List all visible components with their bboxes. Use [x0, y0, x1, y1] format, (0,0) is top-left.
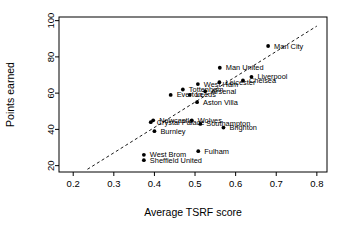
data-point-label: Man City	[274, 42, 303, 51]
data-point-label: Fulham	[204, 147, 229, 156]
data-point	[169, 93, 173, 97]
x-tick-label: 0.2	[67, 178, 80, 189]
x-tick-label: 0.3	[107, 178, 120, 189]
data-point	[218, 66, 222, 70]
data-point-label: Sheffield United	[150, 156, 202, 165]
plot-canvas: 0.20.30.40.50.60.70.820406080100Average …	[0, 0, 345, 231]
data-point	[222, 126, 226, 130]
data-point-label: Brighton	[229, 123, 257, 132]
y-tick-label: 20	[45, 160, 56, 171]
y-axis-title: Points earned	[4, 62, 16, 127]
data-point	[195, 100, 199, 104]
data-point-label: Aston Villa	[203, 98, 239, 107]
x-axis-title: Average TSRF score	[144, 206, 242, 218]
data-point-label: Man United	[226, 63, 264, 72]
data-point	[153, 129, 157, 133]
data-point	[266, 44, 270, 48]
x-tick-label: 0.6	[229, 178, 242, 189]
y-tick-label: 40	[45, 124, 56, 135]
y-tick-label: 60	[45, 88, 56, 99]
x-tick-label: 0.8	[310, 178, 323, 189]
data-point-label: Everton	[177, 90, 202, 99]
data-point	[196, 149, 200, 153]
y-tick-label: 80	[45, 52, 56, 63]
data-point	[198, 122, 202, 126]
data-point	[190, 118, 194, 122]
data-point	[142, 153, 146, 157]
scatter-plot-chart: 0.20.30.40.50.60.70.820406080100Average …	[0, 0, 345, 231]
y-tick-label: 100	[45, 13, 56, 29]
x-tick-label: 0.7	[270, 178, 283, 189]
x-tick-label: 0.5	[188, 178, 201, 189]
data-point	[149, 120, 153, 124]
data-point	[142, 158, 146, 162]
x-tick-label: 0.4	[148, 178, 161, 189]
data-point-label: Burnley	[160, 127, 185, 136]
